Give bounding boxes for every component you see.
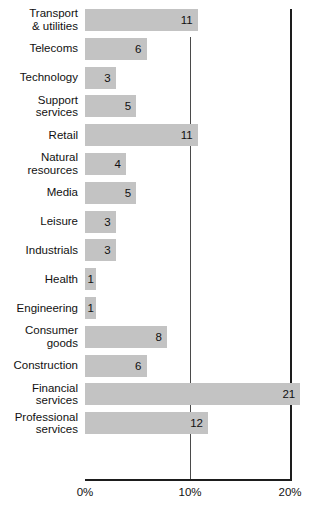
bar-value-label: 3: [104, 216, 110, 228]
bar-value-label: 3: [104, 244, 110, 256]
bar: 11: [85, 9, 198, 31]
category-label: Leisure: [0, 215, 78, 228]
bar: 11: [85, 124, 198, 146]
bar: 3: [85, 67, 116, 89]
bar: 1: [85, 297, 96, 319]
bar: 12: [85, 412, 208, 434]
bar-value-label: 6: [135, 43, 141, 55]
bar: 21: [85, 383, 300, 405]
bar: 3: [85, 239, 116, 261]
bar: 5: [85, 182, 136, 204]
bar-value-label: 3: [104, 72, 110, 84]
bar-value-label: 8: [156, 331, 162, 343]
category-label: Technology: [0, 71, 78, 84]
bar: 6: [85, 355, 147, 377]
category-label: Support services: [0, 94, 78, 119]
xtick-label-0: 0%: [63, 486, 107, 498]
plot-area: Transport & utilities11Telecoms6Technolo…: [0, 0, 318, 516]
category-label: Financial services: [0, 382, 78, 407]
bar-value-label: 6: [135, 360, 141, 372]
category-label: Health: [0, 273, 78, 286]
category-label: Engineering: [0, 302, 78, 315]
bar: 5: [85, 95, 136, 117]
bar-value-label: 5: [125, 187, 131, 199]
bar: 1: [85, 268, 96, 290]
gridline-20-percent: [290, 9, 292, 480]
bar-value-label: 21: [282, 388, 295, 400]
bar: 6: [85, 38, 147, 60]
bar: 4: [85, 153, 126, 175]
xtick-label-2: 20%: [268, 486, 312, 498]
xtick-label-1: 10%: [168, 486, 212, 498]
category-label: Transport & utilities: [0, 7, 78, 32]
bar-value-label: 5: [125, 100, 131, 112]
category-label: Telecoms: [0, 42, 78, 55]
category-label: Construction: [0, 359, 78, 372]
bar-value-label: 1: [88, 273, 94, 285]
category-label: Natural resources: [0, 151, 78, 176]
bar-value-label: 12: [190, 417, 203, 429]
category-label: Industrials: [0, 244, 78, 257]
bar: 8: [85, 326, 167, 348]
bar-value-label: 11: [181, 14, 193, 26]
bar-value-label: 11: [181, 129, 193, 141]
bar-value-label: 4: [115, 158, 121, 170]
category-label: Retail: [0, 129, 78, 142]
bar-value-label: 1: [88, 302, 94, 314]
bar-chart: Transport & utilities11Telecoms6Technolo…: [0, 0, 318, 516]
category-label: Professional services: [0, 411, 78, 436]
x-axis-line: [85, 479, 292, 481]
bar: 3: [85, 211, 116, 233]
category-label: Consumer goods: [0, 324, 78, 349]
category-label: Media: [0, 186, 78, 199]
